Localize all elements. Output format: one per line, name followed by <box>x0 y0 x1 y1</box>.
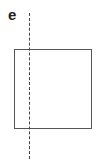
dashed-axis-line <box>29 13 30 159</box>
square-shape <box>14 49 92 129</box>
panel-label: e <box>8 7 16 23</box>
